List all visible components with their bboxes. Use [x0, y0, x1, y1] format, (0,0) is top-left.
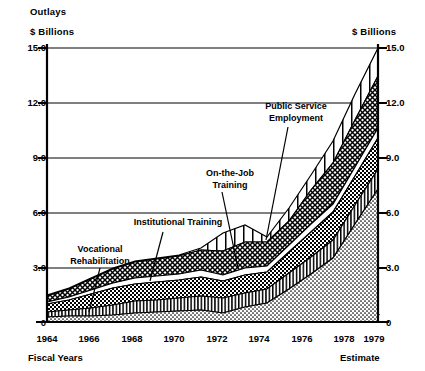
chart-figure: Outlays $ Billions $ Billions 15.0 12.0 … [0, 0, 425, 371]
chart-plot-area [0, 0, 425, 371]
